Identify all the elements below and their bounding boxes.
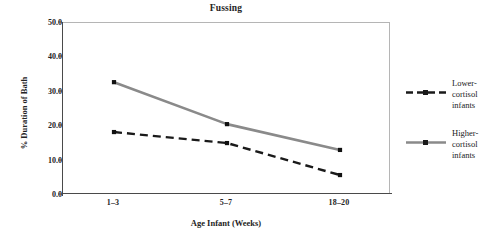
series-plot xyxy=(63,23,391,195)
data-point xyxy=(225,141,229,145)
series-markers-lower-cortisol xyxy=(112,130,342,177)
legend-label-line-3: infants xyxy=(452,100,475,110)
chart-title: Fussing xyxy=(62,3,390,13)
series-line-higher-cortisol xyxy=(114,82,340,150)
legend-swatch-solid-icon xyxy=(406,133,446,142)
y-tick-label-30: 30.0 xyxy=(18,86,62,95)
legend-label-higher-cortisol: Higher- cortisol infants xyxy=(452,128,500,161)
y-tick-label-40: 40.0 xyxy=(18,52,62,61)
legend-label-lower-cortisol: Lower- cortisol infants xyxy=(452,78,500,111)
x-tick-label-3: 18–20 xyxy=(304,198,374,207)
legend-label-line-2: cortisol xyxy=(452,139,478,149)
series-line-lower-cortisol xyxy=(114,132,340,175)
data-point xyxy=(338,148,342,152)
y-tick-label-20: 20.0 xyxy=(18,121,62,130)
data-point xyxy=(225,122,229,126)
y-tick-label-50: 50.0 xyxy=(18,18,62,27)
data-point xyxy=(112,80,116,84)
legend-label-line-1: Lower- xyxy=(452,78,477,88)
x-tick-label-1: 1–3 xyxy=(78,198,148,207)
chart-legend: Lower- cortisol infants Higher- cortisol… xyxy=(406,78,500,178)
y-tick-label-10: 10.0 xyxy=(18,155,62,164)
legend-swatch-dashed-icon xyxy=(406,83,446,92)
y-tick-label-0: 0.0 xyxy=(18,190,62,199)
legend-entry-lower-cortisol[interactable]: Lower- cortisol infants xyxy=(406,78,500,114)
legend-label-line-1: Higher- xyxy=(452,128,478,138)
data-point xyxy=(338,173,342,177)
legend-label-line-2: cortisol xyxy=(452,89,478,99)
legend-entry-higher-cortisol[interactable]: Higher- cortisol infants xyxy=(406,128,500,164)
x-axis-tick-labels: 1–3 5–7 18–20 xyxy=(62,198,390,212)
chart-figure: Fussing % Duration of Bath 0.0 10.0 20.0… xyxy=(0,0,502,239)
plot-area xyxy=(62,22,390,194)
legend-label-line-3: infants xyxy=(452,150,475,160)
data-point xyxy=(112,130,116,134)
x-axis-title: Age Infant (Weeks) xyxy=(62,218,390,228)
y-axis-tick-labels: 0.0 10.0 20.0 30.0 40.0 50.0 xyxy=(14,22,62,194)
x-tick-label-2: 5–7 xyxy=(191,198,261,207)
